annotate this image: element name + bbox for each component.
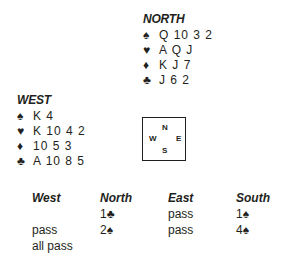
west-title: WEST: [17, 93, 86, 107]
west-diamond-cards: 10 5 3: [33, 139, 72, 153]
north-heart-cards: A Q J: [159, 43, 193, 57]
west-hand: WEST ♠K 4 ♥K 10 4 2 ♦10 5 3 ♣A 10 8 5: [17, 93, 86, 169]
spade-icon: ♠: [17, 109, 33, 124]
north-spade-cards: Q 10 3 2: [159, 28, 213, 42]
auction-row: 1♣ pass 1♠: [32, 206, 290, 222]
auction-header-east: East: [168, 190, 236, 206]
auction-row: pass 2♠ pass 4♠: [32, 222, 290, 238]
bid-cell: all pass: [32, 238, 100, 254]
auction-header-north: North: [100, 190, 168, 206]
auction-row: all pass: [32, 238, 290, 254]
north-diamonds: ♦K J 7: [143, 58, 213, 73]
compass-east: E: [176, 135, 181, 143]
bid-cell: [100, 238, 168, 254]
compass-north: N: [162, 124, 168, 132]
auction-header-south: South: [236, 190, 290, 206]
north-spades: ♠Q 10 3 2: [143, 28, 213, 43]
heart-icon: ♥: [17, 124, 33, 139]
club-icon: ♣: [143, 73, 159, 88]
bid-cell: [236, 238, 290, 254]
auction-table: West North East South 1♣ pass 1♠ pass 2♠…: [32, 190, 290, 254]
north-clubs: ♣J 6 2: [143, 73, 213, 88]
bid-cell: 2♠: [100, 222, 168, 238]
west-clubs: ♣A 10 8 5: [17, 154, 86, 169]
compass-west: W: [149, 135, 157, 143]
west-spades: ♠K 4: [17, 109, 86, 124]
bid-cell: pass: [168, 222, 236, 238]
bid-cell: pass: [32, 222, 100, 238]
west-hearts: ♥K 10 4 2: [17, 124, 86, 139]
spade-icon: ♠: [143, 28, 159, 43]
diamond-icon: ♦: [143, 58, 159, 73]
north-hand: NORTH ♠Q 10 3 2 ♥A Q J ♦K J 7 ♣J 6 2: [143, 12, 213, 88]
west-spade-cards: K 4: [33, 109, 54, 123]
north-title: NORTH: [143, 12, 213, 26]
bid-cell: [168, 238, 236, 254]
bid-cell: pass: [168, 206, 236, 222]
diamond-icon: ♦: [17, 139, 33, 154]
heart-icon: ♥: [143, 43, 159, 58]
north-hearts: ♥A Q J: [143, 43, 213, 58]
club-icon: ♣: [17, 154, 33, 169]
auction-header-west: West: [32, 190, 100, 206]
bid-cell: 4♠: [236, 222, 290, 238]
bid-cell: 1♠: [236, 206, 290, 222]
bid-cell: 1♣: [100, 206, 168, 222]
bid-cell: [32, 206, 100, 222]
west-diamonds: ♦10 5 3: [17, 139, 86, 154]
compass-box: N W E S: [142, 117, 186, 161]
auction-header-row: West North East South: [32, 190, 290, 206]
north-club-cards: J 6 2: [159, 73, 190, 87]
compass-south: S: [162, 147, 167, 155]
north-diamond-cards: K J 7: [159, 58, 191, 72]
west-heart-cards: K 10 4 2: [33, 124, 86, 138]
west-club-cards: A 10 8 5: [33, 154, 85, 168]
